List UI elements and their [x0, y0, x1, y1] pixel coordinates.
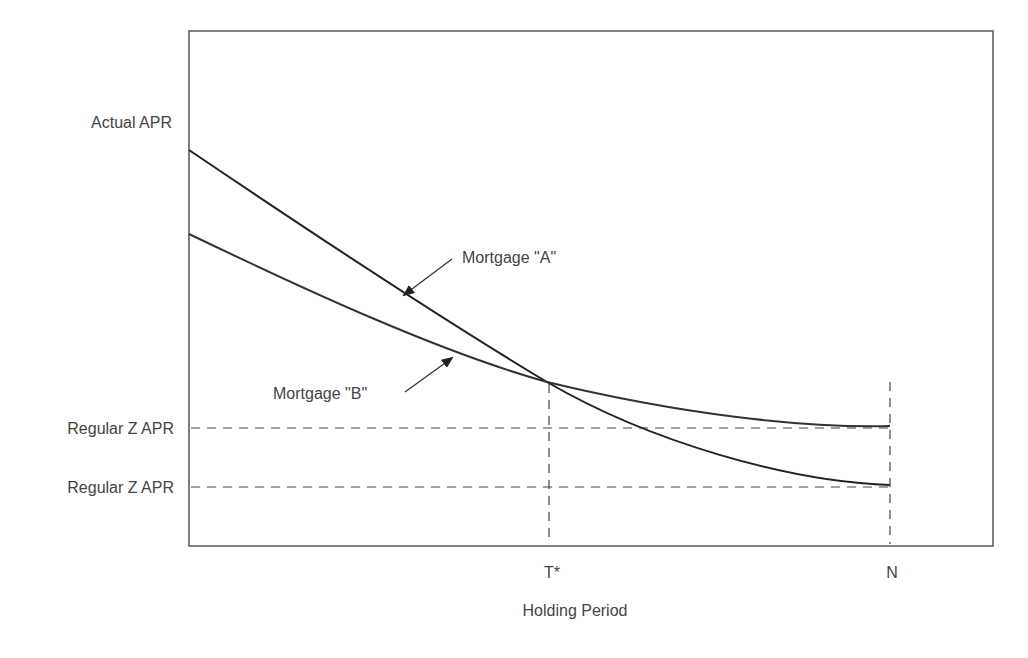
mortgage-a-label: Mortgage "A" — [462, 249, 556, 266]
mortgage-b-label: Mortgage "B" — [273, 385, 367, 402]
t-star-tick-label: T* — [544, 564, 560, 581]
regular-z-apr-upper-label: Regular Z APR — [67, 420, 174, 437]
plot-frame — [189, 31, 993, 546]
x-axis-title: Holding Period — [523, 602, 628, 619]
actual-apr-label: Actual APR — [91, 114, 172, 131]
mortgage-b-arrow — [405, 358, 452, 392]
n-tick-label: N — [886, 564, 898, 581]
regular-z-apr-lower-label: Regular Z APR — [67, 479, 174, 496]
mortgage-a-arrow — [404, 259, 452, 295]
mortgage-a-curve — [189, 150, 890, 485]
apr-holding-period-chart: Actual APR Regular Z APR Regular Z APR M… — [0, 0, 1028, 658]
